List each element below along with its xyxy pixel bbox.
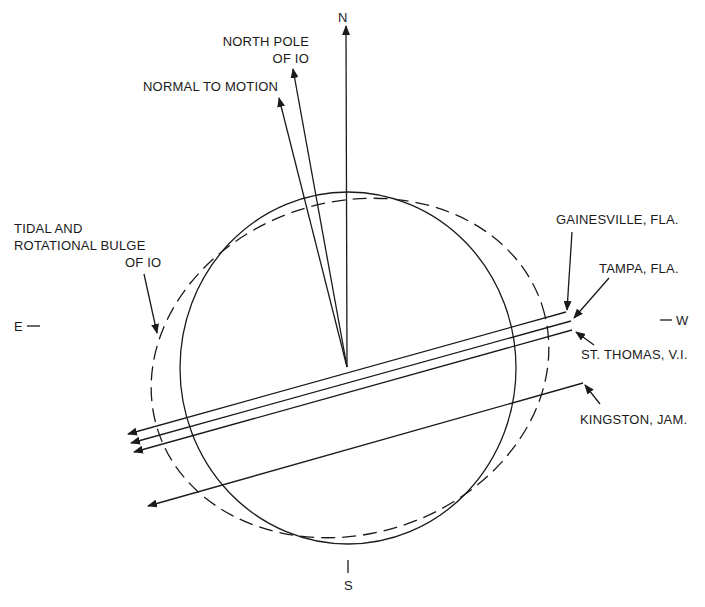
station-label-st-thomas: ST. THOMAS, V.I. <box>581 346 688 363</box>
bulge-label: TIDAL AND ROTATIONAL BULGE OF IO <box>14 220 161 271</box>
leader-st-thomas <box>576 332 594 345</box>
leader-tampa <box>574 278 609 318</box>
io-limb-circle <box>180 192 516 544</box>
north-pole-label-line2: OF IO <box>213 50 309 67</box>
normal-to-motion-label: NORMAL TO MOTION <box>143 78 278 95</box>
leader-kingston <box>585 385 600 404</box>
north-label: N <box>338 9 348 26</box>
north-vector <box>346 26 347 367</box>
station-label-tampa: TAMPA, FLA. <box>599 260 679 277</box>
south-label: S <box>344 577 353 594</box>
bulge-label-line2: ROTATIONAL BULGE <box>14 237 161 254</box>
north-pole-vector <box>293 69 347 367</box>
track-kingston <box>148 383 583 506</box>
bulge-label-line3: OF IO <box>14 254 161 271</box>
east-label: E <box>14 318 23 335</box>
station-label-gainesville: GAINESVILLE, FLA. <box>556 211 679 228</box>
station-label-kingston: KINGSTON, JAM. <box>580 411 687 428</box>
io-occultation-diagram <box>0 0 705 607</box>
track-st-thomas <box>134 330 572 452</box>
leader-bulge <box>144 274 157 333</box>
bulge-label-line1: TIDAL AND <box>14 220 161 237</box>
north-pole-label-line1: NORTH POLE <box>213 33 309 50</box>
leader-gainesville <box>567 232 572 310</box>
track-tampa <box>131 321 571 443</box>
north-pole-label: NORTH POLE OF IO <box>213 33 309 67</box>
normal-to-motion-vector <box>279 98 347 367</box>
west-label: W <box>676 312 688 329</box>
